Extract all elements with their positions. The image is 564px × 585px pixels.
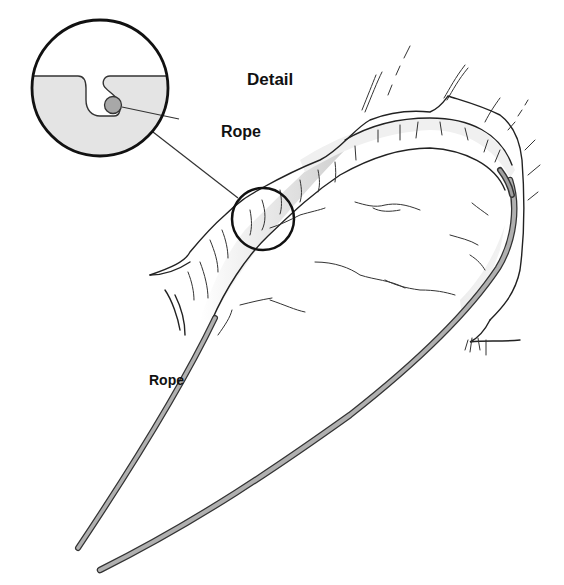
detail-label: Detail	[247, 70, 293, 90]
leader-line	[153, 132, 238, 198]
rope-callout-label: Rope	[221, 123, 261, 141]
rope-main-label: Rope	[149, 372, 184, 388]
rope-cross-section	[105, 97, 122, 114]
detail-inset	[30, 20, 179, 170]
rope	[78, 170, 514, 570]
